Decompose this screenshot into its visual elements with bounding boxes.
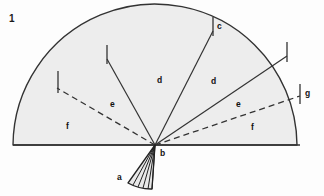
label-f-left: f: [66, 122, 69, 131]
label-g: g: [305, 89, 310, 98]
label-b: b: [160, 149, 165, 158]
label-d-left: d: [157, 76, 162, 85]
label-e-right: e: [236, 100, 241, 109]
label-c: c: [217, 22, 222, 31]
sector-diagram-svg: [0, 0, 324, 196]
label-e-left: e: [110, 100, 115, 109]
label-a: a: [117, 173, 122, 182]
figure-number: 1: [9, 14, 15, 24]
main-sector-shape: [13, 4, 297, 145]
label-f-right: f: [251, 123, 254, 132]
label-d-right: d: [211, 77, 216, 86]
figure-container: 1 a b c d d e e f f g: [0, 0, 324, 196]
